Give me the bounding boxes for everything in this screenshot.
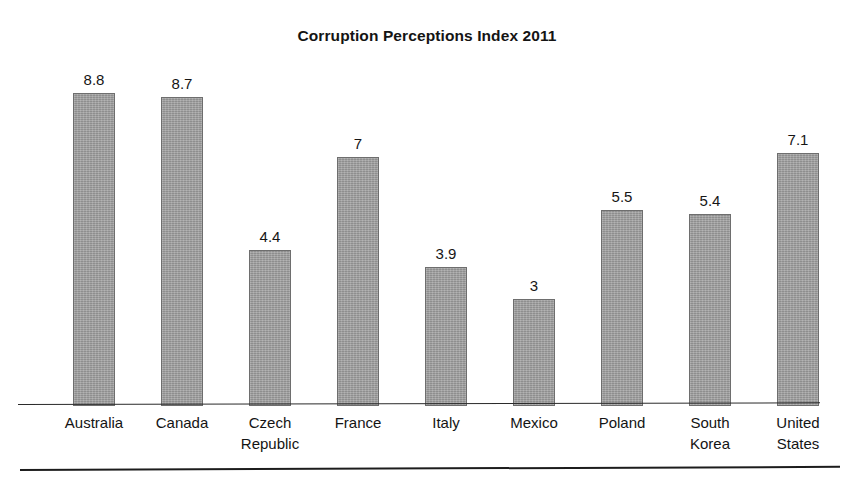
bar-value-label: 3.9 [402,245,490,262]
bar [513,299,555,406]
bar-group: 7.1 [754,60,842,406]
bar-value-label: 7.1 [754,131,842,148]
category-label-line: Republic [222,433,318,454]
bar [777,153,819,406]
category-label-line: South [690,414,729,431]
bar [337,157,379,406]
bar-group: 8.8 [50,60,138,406]
bar [249,250,291,407]
bar-group: 4.4 [226,60,314,406]
bar-group: 3.9 [402,60,490,406]
plot-area: 8.88.74.473.935.55.47.1 [18,60,823,406]
bar [601,210,643,406]
bar [73,93,115,406]
category-label: Poland [574,412,670,433]
chart-figure: Corruption Perceptions Index 2011 8.88.7… [0,0,854,490]
bottom-horizontal-rule [20,466,840,471]
bar-group: 5.5 [578,60,666,406]
category-label-line: Canada [156,414,209,431]
category-label: Canada [134,412,230,433]
bar-value-label: 5.5 [578,188,666,205]
category-label-line: Korea [662,433,758,454]
bar-value-label: 8.7 [138,75,226,92]
bar-value-label: 8.8 [50,71,138,88]
category-label-line: Italy [432,414,460,431]
category-label-line: France [335,414,382,431]
category-label: Australia [46,412,142,433]
bar-group: 7 [314,60,402,406]
category-label-line: Australia [65,414,123,431]
chart-title: Corruption Perceptions Index 2011 [0,27,854,45]
bar-value-label: 5.4 [666,192,754,209]
category-label: UnitedStates [750,412,846,454]
category-label: France [310,412,406,433]
bar-value-label: 4.4 [226,228,314,245]
bar-group: 3 [490,60,578,406]
category-label-line: States [750,433,846,454]
bar-group: 8.7 [138,60,226,406]
category-label: Italy [398,412,494,433]
bar [161,97,203,406]
category-label-line: Poland [599,414,646,431]
bar-value-label: 3 [490,277,578,294]
category-label-line: Mexico [510,414,558,431]
bar [689,214,731,406]
category-label: CzechRepublic [222,412,318,454]
category-label: SouthKorea [662,412,758,454]
category-label-line: United [776,414,819,431]
bar [425,267,467,406]
category-label: Mexico [486,412,582,433]
bar-group: 5.4 [666,60,754,406]
category-label-line: Czech [249,414,292,431]
bar-value-label: 7 [314,135,402,152]
